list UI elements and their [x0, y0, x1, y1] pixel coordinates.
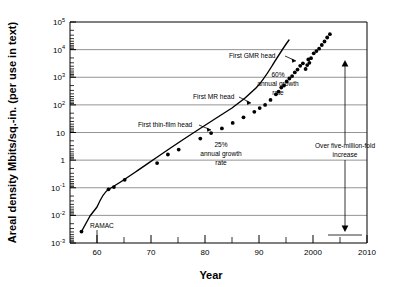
data-point: [80, 230, 84, 234]
y-tick-exp-1e4: 4: [62, 44, 65, 50]
x-tick-label-2010: 2010: [358, 248, 376, 257]
data-point: [177, 148, 181, 152]
chart-svg: 105 104 103 102 10 1 10-1 10-2 10-3 60 7…: [0, 0, 415, 287]
annotation-growth-60-line2: annual growth: [257, 80, 299, 88]
data-point: [309, 56, 313, 60]
data-point: [209, 131, 213, 135]
y-tick-exp-1e2: 2: [62, 100, 65, 106]
annotation-growth-25-line1: 25%: [214, 141, 227, 148]
data-point: [308, 61, 312, 65]
annotation-growth-60-line1: 60%: [271, 71, 284, 78]
svg-text:103: 103: [53, 72, 65, 82]
y-tick-exp-1em2: -2: [60, 210, 65, 216]
svg-text:10-3: 10-3: [51, 238, 65, 248]
areal-density-chart: 105 104 103 102 10 1 10-1 10-2 10-3 60 7…: [0, 0, 415, 287]
data-point: [328, 32, 332, 36]
data-point: [220, 126, 224, 130]
data-point: [304, 67, 308, 71]
y-tick-exp-1e3: 3: [62, 72, 65, 78]
x-axis-tick-labels: 60 70 80 90 2000 2010: [93, 248, 377, 257]
data-point: [317, 47, 321, 51]
y-tick-label-1: 1: [61, 156, 66, 165]
x-tick-label-2000: 2000: [304, 248, 322, 257]
data-point: [112, 185, 116, 189]
x-tick-label-1980: 80: [201, 248, 210, 257]
data-point: [301, 61, 305, 65]
annotation-gmr-head-label: First GMR head: [229, 52, 276, 59]
svg-text:10-1: 10-1: [51, 182, 65, 192]
data-point: [198, 137, 202, 141]
x-axis-title: Year: [199, 269, 223, 281]
data-point: [293, 71, 297, 75]
data-point: [296, 68, 300, 72]
y-axis-title: Areal density Mbits/sq.-in. (per use in …: [6, 22, 18, 244]
x-tick-label-1990: 90: [255, 248, 264, 257]
annotation-mr-head-label: First MR head: [193, 93, 235, 100]
y-tick-exp-1em1: -1: [60, 182, 65, 188]
svg-text:104: 104: [53, 44, 65, 54]
data-point: [166, 153, 170, 157]
data-point: [231, 121, 235, 125]
annotation-fold-increase-line2: increase: [333, 151, 358, 158]
y-tick-exp-1em3: -3: [60, 238, 65, 244]
data-point: [269, 98, 273, 102]
data-point: [252, 110, 256, 114]
data-point: [325, 36, 329, 40]
data-point: [320, 43, 324, 47]
data-point: [263, 103, 267, 107]
x-tick-label-1960: 60: [93, 248, 102, 257]
svg-text:105: 105: [53, 17, 65, 27]
data-point: [242, 115, 246, 119]
y-tick-exp-1e5: 5: [62, 17, 65, 23]
data-point: [258, 106, 262, 110]
y-axis-tick-labels: 105 104 103 102 10 1 10-1 10-2 10-3: [51, 17, 65, 248]
annotation-growth-25-line2: annual growth: [200, 150, 242, 158]
annotation-thin-film-head-label: First thin-film head: [138, 121, 193, 128]
svg-text:102: 102: [53, 100, 65, 110]
annotation-growth-25-line3: rate: [215, 159, 227, 166]
annotation-ramac-label: RAMAC: [90, 222, 114, 229]
svg-text:10-2: 10-2: [51, 210, 65, 220]
data-point: [290, 74, 294, 78]
data-point: [123, 178, 127, 182]
data-point: [155, 161, 159, 165]
annotation-growth-60-line3: rate: [272, 89, 284, 96]
data-point: [107, 187, 111, 191]
x-tick-label-1970: 70: [147, 248, 156, 257]
data-point: [323, 40, 327, 44]
y-tick-label-10: 10: [56, 129, 65, 138]
